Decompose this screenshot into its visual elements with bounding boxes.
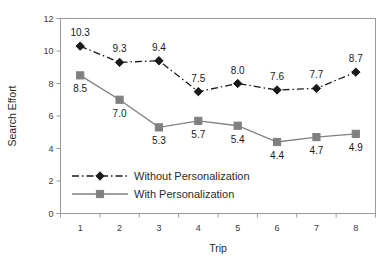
data-point <box>76 42 84 50</box>
y-tick-label: 4 <box>48 144 53 154</box>
y-tick-label: 8 <box>48 79 53 89</box>
data-point <box>77 72 84 79</box>
data-label: 8.0 <box>231 65 245 76</box>
data-point <box>273 86 281 94</box>
data-point <box>233 79 241 87</box>
x-tick-label: 8 <box>353 223 358 233</box>
y-tick-label: 6 <box>48 111 53 121</box>
plot-frame <box>61 19 376 214</box>
series-2: 8.57.05.35.75.44.44.74.9 <box>73 72 363 161</box>
chart-canvas: 02468101212345678TripSearch Effort10.39.… <box>0 0 391 271</box>
data-label: 7.0 <box>113 108 127 119</box>
data-point <box>195 117 202 124</box>
data-point <box>313 134 320 141</box>
y-tick-label: 10 <box>43 46 53 56</box>
data-label: 4.4 <box>270 150 284 161</box>
x-tick-label: 5 <box>235 223 240 233</box>
data-label: 8.7 <box>349 53 363 64</box>
x-tick-label: 6 <box>275 223 280 233</box>
y-tick-label: 2 <box>48 176 53 186</box>
legend-item-2: With Personalization <box>72 188 234 200</box>
data-label: 9.4 <box>152 42 166 53</box>
data-point <box>155 57 163 65</box>
x-tick-label: 3 <box>156 223 161 233</box>
data-point <box>352 130 359 137</box>
data-label: 7.7 <box>309 69 323 80</box>
x-tick-label: 4 <box>196 223 201 233</box>
x-axis-title: Trip <box>209 242 227 254</box>
data-label: 4.9 <box>349 142 363 153</box>
y-axis-title: Search Effort <box>6 85 18 146</box>
x-tick-label: 7 <box>314 223 319 233</box>
data-point <box>155 124 162 131</box>
legend-marker <box>96 172 104 180</box>
series-1: 10.39.39.47.58.07.67.78.7 <box>70 27 363 96</box>
legend-marker <box>96 190 103 197</box>
y-tick-label: 0 <box>48 209 53 219</box>
legend-label: With Personalization <box>134 188 234 200</box>
data-label: 7.6 <box>270 71 284 82</box>
data-point <box>234 122 241 129</box>
data-point <box>273 138 280 145</box>
search-effort-chart: 02468101212345678TripSearch Effort10.39.… <box>0 0 391 271</box>
legend-label: Without Personalization <box>134 170 250 182</box>
data-label: 5.4 <box>231 134 245 145</box>
data-point <box>194 87 202 95</box>
x-tick-label: 1 <box>78 223 83 233</box>
data-point <box>312 84 320 92</box>
data-point <box>115 58 123 66</box>
x-tick-label: 2 <box>117 223 122 233</box>
data-label: 5.7 <box>191 129 205 140</box>
legend-item-1: Without Personalization <box>72 170 250 182</box>
data-label: 8.5 <box>73 83 87 94</box>
data-label: 9.3 <box>113 43 127 54</box>
data-label: 10.3 <box>70 27 90 38</box>
data-label: 4.7 <box>309 145 323 156</box>
data-label: 5.3 <box>152 135 166 146</box>
y-tick-label: 12 <box>43 14 53 24</box>
data-label: 7.5 <box>191 73 205 84</box>
data-point <box>116 96 123 103</box>
data-point <box>352 68 360 76</box>
